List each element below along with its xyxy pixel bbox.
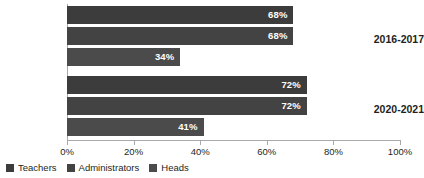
bar-value-label: 34%	[155, 52, 180, 62]
bar-chart: 2016-2017 2020-2021 68% 68% 34%	[0, 0, 424, 178]
x-axis-tick-label: 20%	[124, 146, 143, 157]
x-axis-tick	[400, 141, 401, 145]
bar-administrators-2020-2021[interactable]: 72%	[67, 97, 307, 115]
bar-row: 34%	[67, 48, 400, 66]
x-axis-tick-label: 80%	[324, 146, 343, 157]
legend-item-teachers[interactable]: Teachers	[6, 162, 57, 173]
bar-value-label: 68%	[268, 10, 293, 20]
legend-swatch-icon	[6, 164, 14, 172]
bar-row: 68%	[67, 6, 400, 24]
x-axis-tick-label: 60%	[257, 146, 276, 157]
bar-administrators-2016-2017[interactable]: 68%	[67, 27, 293, 45]
bar-value-label: 72%	[281, 101, 306, 111]
legend-label: Teachers	[18, 162, 57, 173]
legend-item-heads[interactable]: Heads	[149, 162, 188, 173]
bar-value-label: 41%	[178, 122, 203, 132]
bar-row: 72%	[67, 76, 400, 94]
bar-row: 68%	[67, 27, 400, 45]
bar-group-2020-2021: 72% 72% 41%	[67, 76, 400, 138]
bar-value-label: 72%	[281, 80, 306, 90]
legend: Teachers Administrators Heads	[6, 162, 189, 173]
legend-label: Administrators	[79, 162, 140, 173]
legend-label: Heads	[161, 162, 188, 173]
x-axis-tick	[200, 141, 201, 145]
x-axis-tick	[333, 141, 334, 145]
x-axis-tick	[267, 141, 268, 145]
plot-area: 68% 68% 34% 72% 72%	[67, 4, 400, 140]
bar-row: 72%	[67, 97, 400, 115]
x-axis-line	[67, 140, 401, 141]
x-axis-tick	[134, 141, 135, 145]
legend-swatch-icon	[67, 164, 75, 172]
bar-teachers-2020-2021[interactable]: 72%	[67, 76, 307, 94]
bar-row: 41%	[67, 118, 400, 136]
x-axis-tick-label: 100%	[388, 146, 412, 157]
bar-value-label: 68%	[268, 31, 293, 41]
legend-swatch-icon	[149, 164, 157, 172]
x-axis-tick	[67, 141, 68, 145]
x-axis-tick-label: 40%	[191, 146, 210, 157]
x-axis-tick-label: 0%	[60, 146, 74, 157]
bar-heads-2020-2021[interactable]: 41%	[67, 118, 204, 136]
bar-group-2016-2017: 68% 68% 34%	[67, 6, 400, 68]
bar-teachers-2016-2017[interactable]: 68%	[67, 6, 293, 24]
legend-item-administrators[interactable]: Administrators	[67, 162, 140, 173]
bar-heads-2016-2017[interactable]: 34%	[67, 48, 180, 66]
